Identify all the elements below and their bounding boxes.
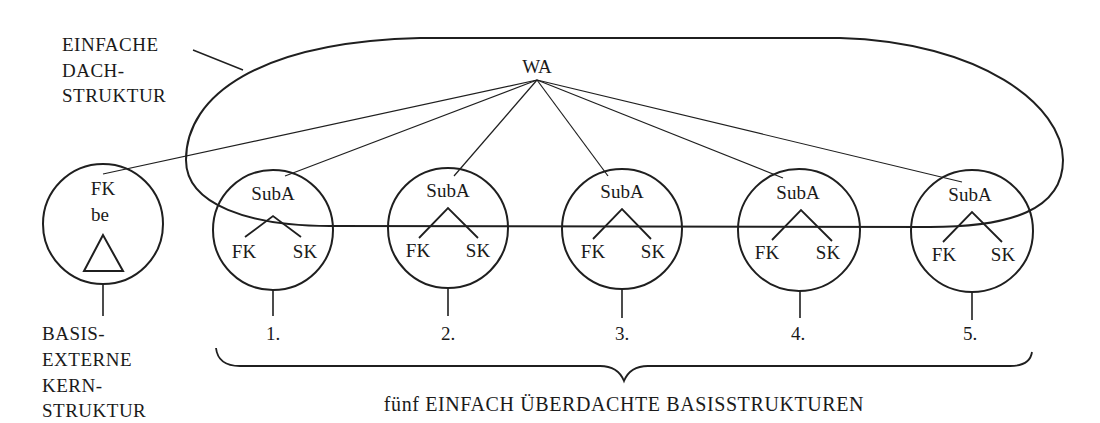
- base-5-left: FK: [932, 244, 957, 265]
- roof-label-line-2: DACH-: [62, 60, 125, 81]
- base-2-index: 2.: [441, 323, 455, 344]
- diagram-svg: EINFACHE DACH- STRUKTUR WA FK be BASIS- …: [0, 0, 1100, 423]
- base-5-index: 5.: [963, 323, 977, 344]
- external-sub-label: be: [91, 204, 109, 225]
- base-4-top: SubA: [776, 182, 820, 203]
- roof-label-line-3: STRUKTUR: [62, 85, 166, 106]
- external-caption-line-1: BASIS-: [42, 323, 105, 344]
- roof-label-line-1: EINFACHE: [62, 34, 159, 55]
- external-caption-line-3: KERN-: [42, 375, 103, 396]
- base-1-top: SubA: [251, 183, 295, 204]
- external-caption-line-4: STRUKTUR: [42, 400, 146, 421]
- root-edges: [103, 80, 962, 182]
- external-caption-line-2: EXTERNE: [42, 349, 132, 370]
- base-2-left: FK: [406, 240, 431, 261]
- base-5-top: SubA: [948, 184, 992, 205]
- base-3-right: SK: [641, 241, 666, 262]
- base-2-top: SubA: [426, 180, 470, 201]
- brace-caption: fünf EINFACH ÜBERDACHTE BASISSTRUKTUREN: [384, 393, 864, 415]
- base-3-top: SubA: [600, 181, 644, 202]
- base-1-index: 1.: [266, 323, 280, 344]
- external-node-label: FK: [91, 178, 116, 199]
- base-2-right: SK: [466, 240, 491, 261]
- base-4-index: 4.: [791, 323, 805, 344]
- triangle-icon: [84, 235, 123, 271]
- base-4-left: FK: [755, 242, 780, 263]
- base-3-left: FK: [581, 241, 606, 262]
- base-1-left: FK: [232, 241, 257, 262]
- roof-label-pointer: [193, 50, 243, 70]
- base-4-right: SK: [816, 242, 841, 263]
- base-1-right: SK: [293, 241, 318, 262]
- base-3-index: 3.: [615, 323, 629, 344]
- diagram-canvas: EINFACHE DACH- STRUKTUR WA FK be BASIS- …: [0, 0, 1100, 423]
- base-5-right: SK: [991, 244, 1016, 265]
- root-node-label: WA: [522, 56, 552, 77]
- brace: [216, 348, 1032, 381]
